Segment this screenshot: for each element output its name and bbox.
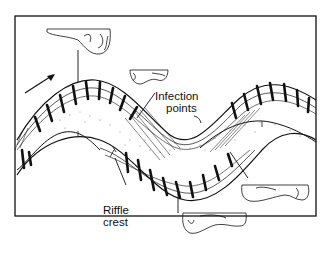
riffle-label-line2: crest — [103, 216, 129, 228]
meander-diagram — [0, 0, 335, 255]
infection-label-line1: Infection — [155, 90, 198, 102]
flow-lines — [15, 108, 260, 160]
infection-label-line2: points — [155, 102, 198, 114]
riffle-label-line1: Riffle — [103, 204, 129, 216]
infection-points-label: Infection points — [155, 90, 198, 114]
riffle-crest-label: Riffle crest — [103, 204, 129, 228]
flow-direction-arrow — [25, 74, 55, 93]
